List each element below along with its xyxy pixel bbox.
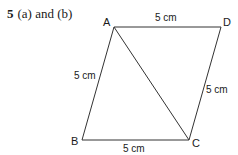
- edge-ab: [82, 27, 114, 140]
- vertex-label-d: D: [223, 16, 231, 28]
- vertex-label-b: B: [71, 135, 78, 147]
- vertex-label-c: C: [192, 137, 200, 149]
- diagonal-ac: [114, 27, 189, 140]
- edges: [82, 27, 221, 140]
- vertex-label-a: A: [103, 16, 111, 28]
- measure-ad: 5 cm: [155, 12, 177, 23]
- rhombus-diagram: A D B C 5 cm 5 cm 5 cm 5 cm: [0, 0, 238, 155]
- measure-dc: 5 cm: [206, 84, 228, 95]
- measure-ab: 5 cm: [74, 70, 96, 81]
- measure-bc: 5 cm: [123, 143, 145, 154]
